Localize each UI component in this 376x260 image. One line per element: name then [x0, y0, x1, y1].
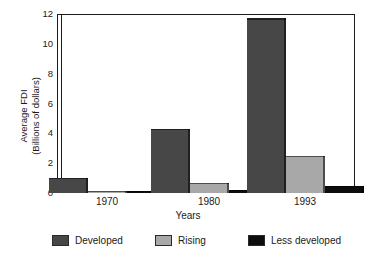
bar-top-edge	[190, 183, 229, 184]
bar-top-edge	[49, 178, 88, 179]
legend-label: Rising	[178, 235, 206, 247]
bar-top-edge	[88, 191, 127, 192]
x-tick-label: 1993	[275, 196, 335, 208]
y-tick-label: 2	[35, 158, 53, 168]
y-tick-label: 12	[35, 9, 53, 19]
y-tick-label: 8	[35, 69, 53, 79]
bar-rising-1980	[190, 183, 229, 193]
x-tick-label: 1970	[77, 196, 137, 208]
bar-less-developed-1993	[325, 186, 364, 193]
bar-top-edge	[151, 129, 190, 130]
legend-label: Developed	[75, 235, 123, 247]
bars-layer	[57, 14, 355, 193]
legend-item-developed[interactable]: Developed	[52, 233, 123, 248]
y-tick-label: 10	[35, 39, 53, 49]
y-axis-tick-labels: 121086420	[33, 0, 53, 260]
bar-top-edge	[247, 18, 286, 19]
y-axis-title-line1: Average FDI	[18, 36, 30, 196]
bar-rising-1970	[88, 191, 127, 193]
bar-chart-figure: Average FDI (Billions of dollars) 121086…	[0, 0, 376, 260]
legend-swatch-icon	[248, 235, 265, 246]
bar-developed-1980	[151, 129, 190, 193]
x-tick-label: 1980	[179, 196, 239, 208]
chart-legend: DevelopedRisingLess developed	[0, 233, 376, 251]
bar-top-edge	[286, 156, 325, 157]
y-tick-label: 6	[35, 99, 53, 109]
legend-swatch-icon	[52, 235, 69, 246]
bar-developed-1970	[49, 178, 88, 193]
legend-item-rising[interactable]: Rising	[155, 233, 206, 248]
legend-swatch-icon	[155, 235, 172, 246]
legend-item-less-developed[interactable]: Less developed	[248, 233, 341, 248]
bar-top-edge	[325, 186, 364, 187]
bar-developed-1993	[247, 18, 286, 193]
x-axis-title: Years	[0, 210, 376, 221]
legend-label: Less developed	[271, 235, 341, 247]
bar-right-edge	[362, 186, 363, 193]
bar-rising-1993	[286, 156, 325, 193]
y-tick-label: 4	[35, 128, 53, 138]
